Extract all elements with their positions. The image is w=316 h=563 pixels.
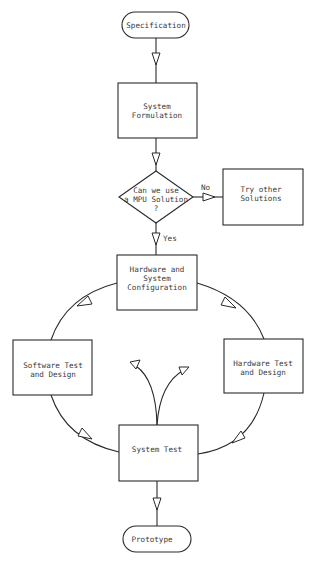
node-label: and Design [240,368,286,377]
node-system-test: System Test [119,425,198,481]
node-label: Specification [126,21,185,30]
node-prototype: Prototype [123,526,191,552]
node-label: ? [154,204,159,213]
node-label: System [143,274,171,283]
node-label: a MPU Solution [124,195,188,204]
node-label: System Test [132,445,182,454]
edge-hardware-to-systest [198,393,264,454]
arrow-right-icon [203,193,215,201]
node-label: Solutions [240,194,281,203]
edge-config-to-hardware [197,283,264,339]
node-label: Configuration [127,283,186,292]
arrow-right-down-icon [78,428,92,439]
edge-systest-feedback-right [157,370,184,425]
node-label: Try other [240,185,282,194]
node-hardware-system-configuration: Hardware and System Configuration [117,255,197,310]
node-mpu-decision: Can we use a MPU Solution ? [119,171,193,223]
edge-label-yes: Yes [163,234,177,243]
edge-systest-feedback-left [136,366,157,425]
node-system-formulation: System Formulation [118,83,197,138]
arrow-right-down-icon [221,297,236,308]
node-label: Software Test [23,361,82,370]
node-label: Formulation [132,111,182,120]
edge-software-to-systest [51,395,119,452]
arrow-up-right-icon [179,367,189,375]
flowchart-diagram: No Yes Specification System Formulation … [0,0,316,563]
node-label: Prototype [131,535,173,544]
node-try-other-solutions: Try other Solutions [223,169,303,225]
node-specification: Specification [122,12,189,38]
node-software-test-design: Software Test and Design [13,340,92,395]
arrow-down-icon [152,53,160,65]
node-label: Hardware and [130,265,185,274]
node-hardware-test-design: Hardware Test and Design [224,339,303,393]
arrow-down-icon [153,498,161,510]
node-label: and Design [30,370,76,379]
node-label: Hardware Test [233,359,292,368]
arrow-down-icon [152,153,160,165]
edge-label-no: No [201,183,211,192]
node-label: Can we use [133,186,179,195]
node-label: System [143,102,171,111]
arrow-down-icon [152,233,160,245]
edge-config-to-software [51,283,117,340]
